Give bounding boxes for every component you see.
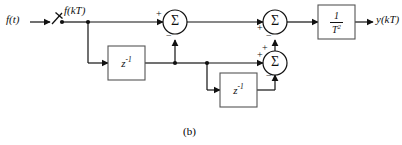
delay-block-2-exponent: -1 bbox=[238, 82, 244, 91]
summer-1-bottom-sign: − bbox=[166, 31, 172, 41]
summer-3-bottom-sign: − bbox=[266, 71, 272, 81]
fraction-bar bbox=[330, 22, 343, 23]
gain-denominator: T2 bbox=[318, 24, 355, 35]
label-input-continuous: f(t) bbox=[6, 13, 19, 25]
summer-3-sigma: Σ bbox=[267, 55, 283, 69]
summer-1-sigma: Σ bbox=[167, 14, 183, 28]
summer-2-bottom-sign: − bbox=[266, 31, 272, 41]
summer-3-top-sign: + bbox=[262, 43, 268, 53]
label-output: y(kT) bbox=[376, 13, 399, 25]
node-branch bbox=[205, 61, 209, 65]
delay-block-2-label: z-1 bbox=[220, 82, 257, 96]
figure-caption: (b) bbox=[183, 125, 196, 137]
gain-block-label: 1 T2 bbox=[318, 11, 355, 35]
summer-2-left-sign: + bbox=[257, 23, 263, 33]
delay-block-1-exponent: -1 bbox=[126, 55, 132, 64]
node-input-branch bbox=[86, 20, 90, 24]
summer-1-left-sign: + bbox=[156, 9, 162, 19]
node-sampler-out bbox=[60, 20, 64, 24]
label-input-sampled: f(kT) bbox=[64, 4, 85, 16]
summer-2-sigma: Σ bbox=[267, 14, 283, 28]
delay-block-1-label: z-1 bbox=[108, 55, 145, 69]
node-delay1-out bbox=[173, 61, 177, 65]
gain-numerator: 1 bbox=[318, 11, 355, 21]
gain-denominator-exponent: 2 bbox=[338, 23, 341, 30]
